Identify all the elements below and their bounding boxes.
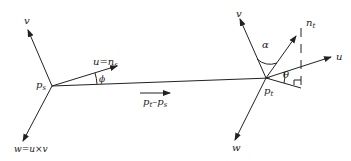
phi-arc: [95, 73, 97, 84]
connector-label: pt–ps: [143, 97, 167, 109]
right-angle-mark: [294, 80, 301, 85]
phi-label: ϕ: [99, 75, 105, 84]
n-label: nt: [306, 18, 315, 30]
left-u-sub: s: [114, 61, 118, 69]
pt-sub: t: [270, 90, 273, 98]
left-v-label: v: [24, 16, 30, 26]
ps-pt-line: [52, 78, 270, 86]
left-v-axis: [28, 30, 52, 86]
left-w-axis: [23, 86, 52, 141]
connector-b-sub: s: [164, 101, 168, 109]
diagram-lines: [0, 0, 351, 161]
right-v-label: v: [236, 9, 242, 19]
right-n-axis: [266, 36, 296, 78]
ps-label: ps: [36, 80, 46, 92]
pt-label: pt: [264, 86, 273, 98]
left-u-text: u=n: [93, 56, 114, 67]
right-w-axis: [235, 78, 266, 140]
diagram-canvas: v u=ns ps ϕ w=u×v pt–ps v nt α u θ pt w: [0, 0, 351, 161]
alpha-label: α: [262, 40, 269, 50]
left-u-label: u=ns: [93, 57, 118, 69]
right-u-axis: [266, 57, 331, 78]
right-w-label: w: [232, 143, 241, 153]
n-sub: t: [312, 22, 315, 30]
left-u-axis: [52, 66, 117, 86]
right-u-label: u: [336, 52, 342, 62]
left-w-label: w=u×v: [14, 145, 48, 154]
ps-sub: s: [42, 84, 46, 92]
theta-label: θ: [283, 70, 289, 80]
